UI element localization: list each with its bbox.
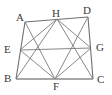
vertex-label-H: H — [52, 8, 60, 19]
vertex-label-A: A — [16, 12, 24, 23]
vertex-label-B: B — [4, 73, 11, 84]
vertex-label-G: G — [96, 42, 104, 53]
vertex-label-F: F — [53, 81, 59, 92]
vertex-label-D: D — [83, 5, 91, 16]
segment-GF — [55, 48, 91, 79]
inner-segments-group — [16, 17, 93, 79]
segment-EG — [20, 48, 91, 50]
vertex-label-C: C — [97, 74, 104, 85]
segment-FE — [20, 50, 55, 79]
edge-AB — [16, 22, 25, 79]
geometry-figure: A B C D E F G H — [0, 0, 112, 95]
segment-AF — [25, 22, 55, 79]
vertex-label-E: E — [4, 44, 11, 55]
